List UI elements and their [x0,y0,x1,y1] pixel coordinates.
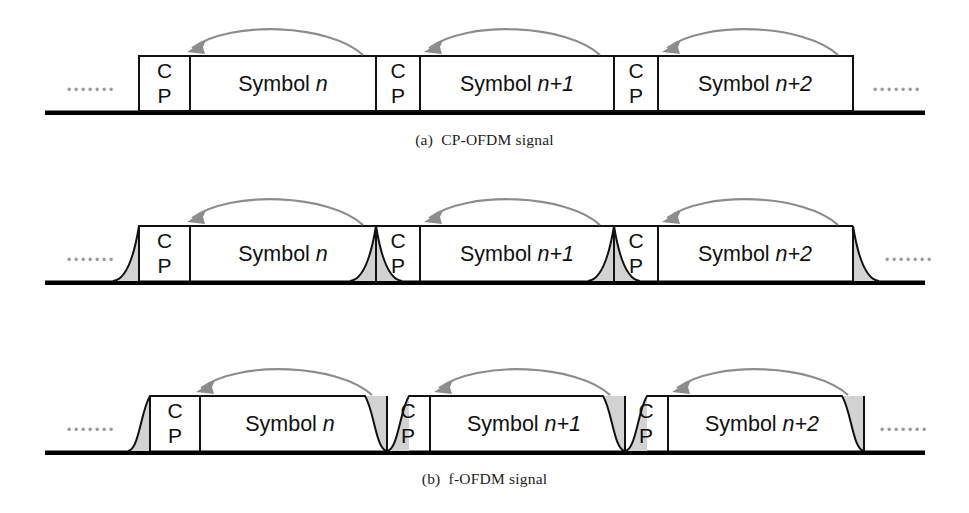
symbol-block-3-label: Symbol n+2 [698,242,812,266]
cp-label-p: P [168,424,182,447]
ofdm-waveform-figure: C P C P C P Symbol n Symbol n+1 Symbol n… [0,0,969,513]
cp-label-c: C [400,399,415,422]
cp-label-p: P [639,424,653,447]
cp-copy-arrow-3 [667,29,838,55]
cp-block-1: C P [157,229,172,277]
cp-label-p: P [629,254,643,277]
baseline [45,281,925,286]
symbol-block-2-label: Symbol n+1 [460,242,574,266]
cp-copy-arrows [192,29,838,55]
panel-f-ofdm-graphic: C P C P C P Symbol n Symbol n+1 Symbol n… [0,170,969,340]
panel-f-ofdm: C P C P C P Symbol n Symbol n+1 Symbol n… [0,170,969,340]
cp-label-p: P [629,84,643,107]
cp-label-c: C [390,229,405,252]
panel-cp-ofdm: C P C P C P Symbol n Symbol n+1 Symbol n… [0,0,969,170]
ellipsis-right: ••••••• [873,83,922,97]
cp-copy-arrowheads [187,40,681,54]
cp-label-p: P [401,424,415,447]
tail-3-rise [588,226,614,281]
symbol-block-3-label: Symbol n+2 [705,412,819,436]
panel-caption-a: (a) CP-OFDM signal [0,131,969,149]
panel-w-ofdm: C P C P C P Symbol n Symbol n+1 Symbol n… [0,340,969,513]
cp-copy-arrow-2 [429,29,600,55]
ellipsis-right: ••••••• [880,423,929,437]
symbol-block-2-label: Symbol n+1 [467,412,581,436]
cp-copy-arrowheads [187,210,681,224]
cp-copy-arrows [201,369,848,395]
symbol-block-1-label: Symbol n [238,72,328,96]
tail-left-rise [113,226,139,281]
ellipsis-left: ••••••• [67,423,116,437]
cp-label-c: C [157,59,172,82]
cp-label-p: P [157,84,171,107]
cp-label-p: P [157,254,171,277]
tail-right-fall [853,226,879,281]
cp-label-c: C [157,229,172,252]
cp-copy-arrow-1 [192,29,363,55]
cp-block-3: C P [628,229,643,277]
cp-block-1: C P [167,399,182,447]
cp-label-c: C [638,399,653,422]
symbol-block-1-label: Symbol n [245,412,335,436]
symbol-block-1-label: Symbol n [238,242,328,266]
cp-label-c: C [390,59,405,82]
symbol-block-2-label: Symbol n+1 [460,72,574,96]
cp-label-c: C [628,59,643,82]
cp-label-c: C [167,399,182,422]
panel-w-ofdm-graphic: C P C P C P Symbol n Symbol n+1 Symbol n… [0,340,969,513]
tail-2-rise [350,226,376,281]
cp-label-c: C [628,229,643,252]
cp-block-2: C P [390,229,405,277]
ellipsis-left: ••••••• [67,253,116,267]
ellipsis-right: ••••••• [885,253,934,267]
cp-label-p: P [391,84,405,107]
cp-label-p: P [391,254,405,277]
cp-copy-arrowheads [196,380,691,394]
ellipsis-left: ••••••• [67,83,116,97]
cp-copy-arrows [192,199,838,225]
baseline [45,451,925,456]
symbol-block-3-label: Symbol n+2 [698,72,812,96]
